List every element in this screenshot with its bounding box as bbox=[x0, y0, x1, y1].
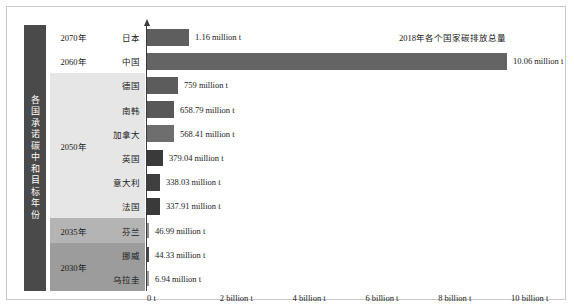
year-group-label: 2030年 bbox=[61, 261, 87, 273]
year-group-label: 2070年 bbox=[61, 31, 87, 43]
bar-row[interactable]: 338.03 million t bbox=[145, 170, 565, 194]
vertical-axis-label-band: 各 国 承 诺 碳 中 和 目 标 年 份 bbox=[24, 25, 46, 291]
bar-value-label: 44.33 million t bbox=[155, 243, 205, 267]
bar-row[interactable]: 46.99 million t bbox=[145, 218, 565, 242]
bar-row[interactable]: 44.33 million t bbox=[145, 243, 565, 267]
bar-row[interactable]: 10.06 million t bbox=[145, 49, 565, 73]
bar-value-label: 6.94 million t bbox=[155, 267, 201, 291]
bar-value-label: 1.16 million t bbox=[195, 25, 241, 49]
country-label-cell: 英国 bbox=[97, 146, 145, 170]
bar-value-label: 46.99 million t bbox=[155, 218, 205, 242]
year-group-cell: 2035年 bbox=[50, 218, 97, 242]
bar[interactable] bbox=[147, 174, 160, 191]
chart-title: 2018年各个国家碳排放总量 bbox=[399, 31, 506, 43]
bar-value-label: 337.91 million t bbox=[166, 194, 221, 218]
country-label: 南韩 bbox=[122, 104, 140, 116]
year-group-column: 2070年2060年2050年2035年2030年 bbox=[50, 25, 97, 291]
year-group-label: 2060年 bbox=[61, 55, 87, 67]
bar-row[interactable]: 658.79 million t bbox=[145, 98, 565, 122]
year-group-cell: 2070年 bbox=[50, 25, 97, 49]
bar[interactable] bbox=[147, 223, 149, 238]
bar-row[interactable]: 6.94 million t bbox=[145, 267, 565, 291]
year-group-label: 2035年 bbox=[61, 225, 87, 237]
country-label-cell: 芬兰 bbox=[97, 218, 145, 242]
bar-value-label: 10.06 million t bbox=[513, 49, 563, 73]
vertical-label-char: 国 bbox=[31, 106, 40, 118]
country-label-cell: 日本 bbox=[97, 25, 145, 49]
chart-frame: 各 国 承 诺 碳 中 和 目 标 年 份 2070年2060年2050年203… bbox=[6, 6, 566, 300]
year-group-cell: 2060年 bbox=[50, 49, 97, 73]
country-label-cell: 意大利 bbox=[97, 170, 145, 194]
bar[interactable] bbox=[147, 198, 160, 215]
country-label: 挪威 bbox=[122, 249, 140, 261]
bar[interactable] bbox=[147, 29, 189, 46]
country-label-cell: 乌拉圭 bbox=[97, 267, 145, 291]
bar-value-label: 759 million t bbox=[184, 73, 228, 97]
country-label-column: 日本中国德国南韩加拿大英国意大利法国芬兰挪威乌拉圭 bbox=[97, 25, 145, 291]
country-label-cell: 中国 bbox=[97, 49, 145, 73]
bar[interactable] bbox=[147, 125, 174, 142]
vertical-label-char: 和 bbox=[31, 164, 40, 176]
country-label-cell: 加拿大 bbox=[97, 122, 145, 146]
x-axis-tick-label: 8 billion t bbox=[438, 293, 471, 303]
bar[interactable] bbox=[147, 77, 178, 94]
vertical-label-char: 目 bbox=[31, 175, 40, 187]
vertical-label-char: 份 bbox=[31, 210, 40, 222]
vertical-label-char: 各 bbox=[31, 95, 40, 107]
country-label: 法国 bbox=[122, 200, 140, 212]
vertical-label-char: 碳 bbox=[31, 141, 40, 153]
bar[interactable] bbox=[147, 247, 149, 262]
bar[interactable] bbox=[147, 150, 163, 167]
year-group-cell: 2050年 bbox=[50, 73, 97, 218]
bar-row[interactable]: 759 million t bbox=[145, 73, 565, 97]
country-label: 英国 bbox=[122, 152, 140, 164]
bar[interactable] bbox=[147, 271, 149, 286]
vertical-label-char: 中 bbox=[31, 152, 40, 164]
bar-row[interactable]: 568.41 million t bbox=[145, 122, 565, 146]
year-group-label: 2050年 bbox=[61, 140, 87, 152]
x-axis-tick-labels: 0 t2 billion t4 billion t6 billion t8 bi… bbox=[145, 293, 574, 308]
x-axis-tick-label: 10 billion t bbox=[511, 293, 548, 303]
bar[interactable] bbox=[147, 101, 174, 118]
x-axis-tick-label: 2 billion t bbox=[220, 293, 253, 303]
bar-row[interactable]: 379.04 million t bbox=[145, 146, 565, 170]
plot-area: 1.16 million t10.06 million t759 million… bbox=[145, 25, 565, 291]
country-label: 意大利 bbox=[113, 176, 140, 188]
vertical-label-char: 年 bbox=[31, 198, 40, 210]
country-label: 加拿大 bbox=[113, 128, 140, 140]
bar-value-label: 568.41 million t bbox=[180, 122, 235, 146]
country-label-cell: 挪威 bbox=[97, 243, 145, 267]
bar[interactable] bbox=[147, 53, 507, 70]
bar-value-label: 658.79 million t bbox=[180, 98, 235, 122]
country-label: 日本 bbox=[122, 31, 140, 43]
country-label: 芬兰 bbox=[122, 225, 140, 237]
country-label-cell: 法国 bbox=[97, 194, 145, 218]
vertical-label-char: 诺 bbox=[31, 129, 40, 141]
country-label: 德国 bbox=[122, 79, 140, 91]
x-axis-tick-label: 0 t bbox=[147, 293, 156, 303]
country-label-cell: 德国 bbox=[97, 73, 145, 97]
vertical-label-char: 标 bbox=[31, 187, 40, 199]
x-axis-tick-label: 4 billion t bbox=[293, 293, 326, 303]
country-label: 乌拉圭 bbox=[113, 273, 140, 285]
bar-value-label: 379.04 million t bbox=[169, 146, 224, 170]
x-axis-tick-label: 6 billion t bbox=[365, 293, 398, 303]
vertical-label-char: 承 bbox=[31, 118, 40, 130]
year-group-cell: 2030年 bbox=[50, 243, 97, 291]
bar-value-label: 338.03 million t bbox=[166, 170, 221, 194]
country-label: 中国 bbox=[122, 55, 140, 67]
country-label-cell: 南韩 bbox=[97, 98, 145, 122]
bar-row[interactable]: 337.91 million t bbox=[145, 194, 565, 218]
